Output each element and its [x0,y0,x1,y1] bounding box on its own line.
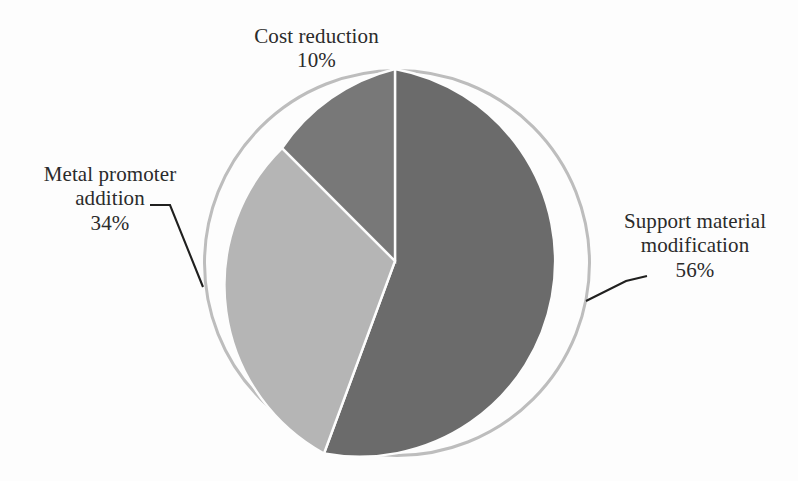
pie-label-cost-reduction: Cost reduction 10% [224,24,409,73]
pie-label-support-material-modification-name-line-2: modification [600,233,790,257]
pie-label-cost-reduction-value: 10% [224,48,409,72]
pie-label-metal-promoter-addition: Metal promoter addition 34% [28,162,192,235]
pie-label-metal-promoter-addition-name-line-2: addition [28,186,192,210]
pie-label-support-material-modification: Support material modification 56% [600,209,790,282]
pie-chart: Cost reduction 10% Metal promoter additi… [0,0,798,481]
pie-label-support-material-modification-value: 56% [600,258,790,282]
pie-label-metal-promoter-addition-value: 34% [28,211,192,235]
pie-label-metal-promoter-addition-name-line-1: Metal promoter [28,162,192,186]
pie-label-support-material-modification-name-line-1: Support material [600,209,790,233]
pie-label-cost-reduction-name: Cost reduction [224,24,409,48]
